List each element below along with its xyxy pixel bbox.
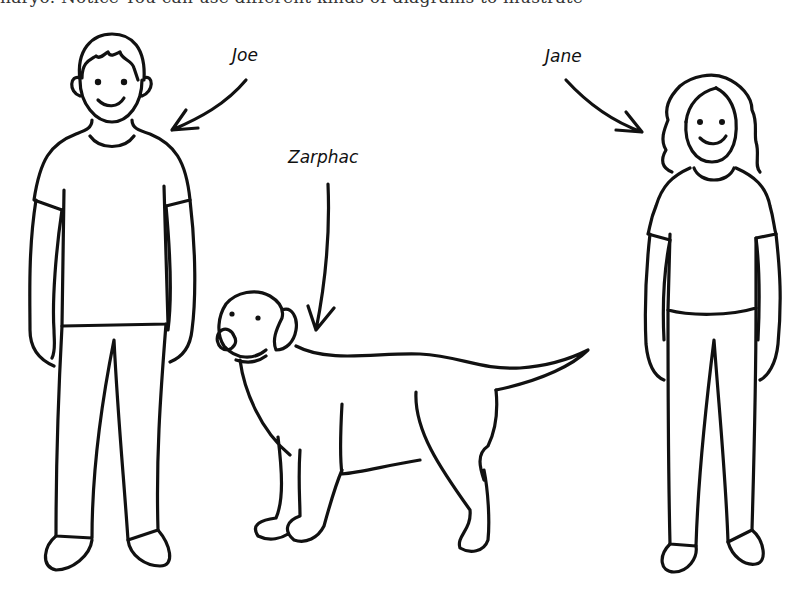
arrow-to-zarphac (308, 184, 334, 330)
dog-eye-right (255, 315, 260, 320)
joe-eye-right (121, 79, 127, 85)
joe-mouth (98, 98, 124, 106)
jane-legs (668, 308, 756, 546)
dog-zarphac (217, 292, 588, 551)
jane-shoes (662, 530, 763, 572)
dog-head (217, 292, 296, 357)
label-jane: Jane (542, 46, 582, 66)
jane-face (686, 88, 736, 162)
dog-back-tail (296, 346, 588, 390)
dog-eye-left (229, 311, 234, 316)
jane-eye-right (719, 119, 725, 125)
arrow-to-joe (172, 80, 246, 130)
label-joe: Joe (229, 45, 258, 65)
person-joe (30, 34, 195, 570)
jane-mouth (700, 136, 726, 144)
dog-body-legs (240, 360, 497, 551)
label-zarphac: Zarphac (287, 147, 359, 167)
illustration: Joe Jane Zarphac (0, 0, 802, 601)
joe-legs (56, 324, 166, 540)
jane-eye-left (697, 119, 703, 125)
joe-eye-left (95, 79, 101, 85)
arrow-to-jane (566, 80, 642, 132)
jane-hair (663, 75, 760, 172)
person-jane (645, 75, 780, 572)
joe-head (72, 34, 152, 122)
